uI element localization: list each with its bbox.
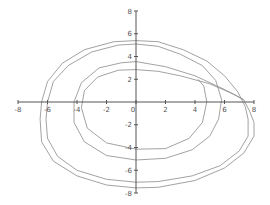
y-tick-label: 2 [128, 76, 132, 84]
x-tick-label: -8 [15, 106, 22, 114]
x-tick-label: -2 [103, 106, 110, 114]
x-tick-label: 0 [131, 106, 135, 114]
y-tick-label: 8 [128, 8, 132, 16]
trajectory-outer-curve [40, 41, 254, 188]
x-tick-label: -6 [44, 106, 52, 114]
trajectory-curves [40, 41, 254, 188]
y-tick-label: -8 [125, 190, 132, 198]
x-tick-label: 4 [193, 106, 198, 114]
y-tick-label: -4 [125, 144, 133, 152]
y-tick-label: -2 [125, 121, 132, 129]
x-tick-label: 6 [222, 106, 227, 114]
y-tick-label: -6 [125, 167, 133, 175]
x-tick-label: 8 [252, 106, 256, 114]
y-tick-label: 4 [128, 53, 133, 61]
phase-plot: -8-6-4-202468 -8-6-4-22468 [0, 0, 270, 205]
y-tick-label: 6 [128, 30, 133, 38]
x-tick-label: -4 [74, 106, 82, 114]
x-tick-label: 2 [163, 106, 167, 114]
